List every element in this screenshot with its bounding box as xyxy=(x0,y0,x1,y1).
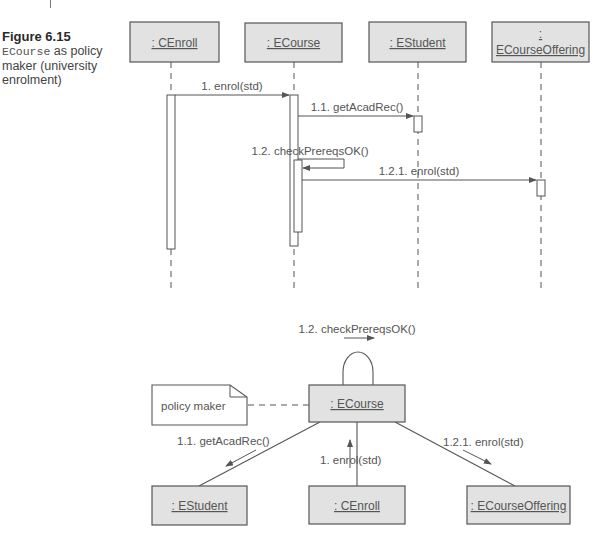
collab-message-checkprereqsok: 1.2. checkPrereqsOK() xyxy=(299,323,416,338)
link-ecourse-ecourseoffering xyxy=(395,422,515,486)
collab-object-ecourse[interactable]: : ECourse xyxy=(309,385,405,422)
message-label: 1. enrol(std) xyxy=(320,454,382,466)
message-label: 1.1. getAcadRec() xyxy=(177,435,270,447)
collaboration-diagram: policy maker : ECourse : EStudent : CEnr… xyxy=(152,323,570,525)
object-label: : ECourse xyxy=(330,397,384,411)
nested-activation-bar xyxy=(294,160,302,232)
message-getacadrec: 1.1. getAcadRec() xyxy=(298,101,413,116)
collab-message-getacadrec: 1.1. getAcadRec() xyxy=(177,435,270,466)
lifeline-estudent: : EStudent xyxy=(369,22,466,290)
object-label-line2: ECourseOffering xyxy=(496,43,585,57)
object-label: : CEnroll xyxy=(334,499,380,513)
diagram-canvas: : CEnroll : ECourse : EStudent : ECourse… xyxy=(0,0,610,547)
activation-bar xyxy=(537,180,545,196)
object-label-line1: : xyxy=(539,27,542,41)
self-message-arrow xyxy=(298,159,344,168)
message-checkprereqsok: 1.2. checkPrereqsOK() xyxy=(252,145,369,168)
direction-arrow xyxy=(463,450,491,464)
collab-object-ecourseoffering[interactable]: : ECourseOffering xyxy=(467,486,570,524)
message-label: 1.2.1. enrol(std) xyxy=(379,165,460,177)
message-enrol-offering: 1.2.1. enrol(std) xyxy=(302,165,536,180)
object-label: : EStudent xyxy=(171,499,228,513)
collab-object-cenroll[interactable]: : CEnroll xyxy=(309,486,405,524)
lifeline-cenroll: : CEnroll xyxy=(130,22,219,290)
object-label: : CEnroll xyxy=(151,36,197,50)
message-label: 1.2. checkPrereqsOK() xyxy=(252,145,369,157)
lifeline-ecourseoffering: : ECourseOffering xyxy=(492,22,589,290)
note-policy-maker: policy maker xyxy=(152,385,247,425)
sequence-diagram: : CEnroll : ECourse : EStudent : ECourse… xyxy=(130,22,589,290)
object-label: : ECourseOffering xyxy=(471,499,567,513)
message-label: 1.1. getAcadRec() xyxy=(311,101,404,113)
link-ecourse-estudent xyxy=(199,422,320,486)
object-label: : ECourse xyxy=(267,36,321,50)
collab-object-estudent[interactable]: : EStudent xyxy=(152,486,247,525)
note-text: policy maker xyxy=(161,400,226,412)
message-label: 1.2. checkPrereqsOK() xyxy=(299,323,416,335)
object-label: : EStudent xyxy=(389,36,446,50)
message-enrol: 1. enrol(std) xyxy=(175,80,289,95)
collab-message-enrol-offering: 1.2.1. enrol(std) xyxy=(443,436,524,464)
activation-bar xyxy=(414,116,422,132)
message-label: 1.2.1. enrol(std) xyxy=(443,436,524,448)
activation-bar xyxy=(167,95,175,249)
self-link-loop xyxy=(343,352,373,385)
collab-message-enrol: 1. enrol(std) xyxy=(320,440,382,468)
message-label: 1. enrol(std) xyxy=(201,80,263,92)
